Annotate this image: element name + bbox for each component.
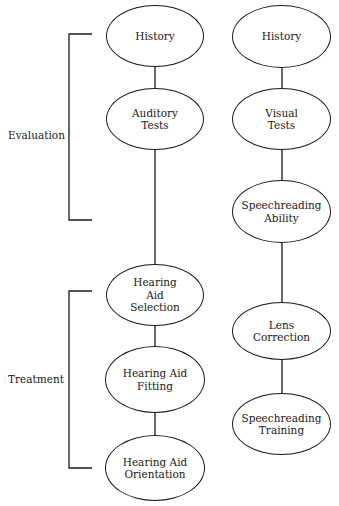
node-label: Lens Correction: [253, 319, 310, 344]
node-hearing-aid-orientation: Hearing Aid Orientation: [105, 435, 205, 501]
treatment-bracket: [69, 291, 92, 468]
node-label: Speechreading Training: [241, 412, 321, 437]
evaluation-bracket: [69, 34, 92, 220]
node-label: History: [135, 30, 174, 43]
node-lens-correction: Lens Correction: [232, 302, 331, 360]
node-visual-tests: Visual Tests: [232, 88, 331, 150]
node-hearing-aid-selection: Hearing Aid Selection: [106, 264, 204, 326]
node-label: Hearing Aid Fitting: [123, 367, 188, 392]
node-hearing-aid-fitting: Hearing Aid Fitting: [105, 346, 205, 413]
node-visual-history: History: [232, 5, 331, 68]
evaluation-label: Evaluation: [8, 129, 65, 141]
node-label: Speechreading Ability: [241, 199, 321, 224]
node-label: Visual Tests: [265, 107, 298, 132]
node-label: Auditory Tests: [132, 107, 178, 132]
node-label: Hearing Aid Selection: [130, 276, 180, 314]
node-speechreading-ability: Speechreading Ability: [232, 180, 331, 243]
node-auditory-history: History: [106, 5, 204, 67]
treatment-label: Treatment: [8, 373, 64, 385]
node-speechreading-training: Speechreading Training: [232, 393, 331, 455]
node-auditory-tests: Auditory Tests: [106, 88, 204, 150]
node-label: Hearing Aid Orientation: [123, 456, 188, 481]
node-label: History: [262, 30, 301, 43]
